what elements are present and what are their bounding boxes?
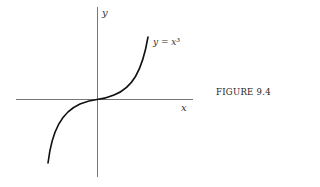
figure-caption: FIGURE 9.4 [216,87,271,97]
cubic-curve [48,37,148,163]
x-axis-label: x [181,102,187,113]
y-axis-label: y [102,7,108,18]
curve-label: y = x³ [153,37,180,47]
